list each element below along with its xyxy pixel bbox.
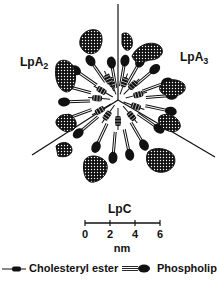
cholesteryl-ester-icon (2, 267, 26, 272)
scale-tick-0: 0 (82, 229, 88, 240)
region-label-lpc: LpC (108, 203, 131, 215)
scale-unit: nm (114, 243, 131, 254)
region-label-lpa3: LpA3 (180, 51, 208, 67)
phospholipid-icon (122, 265, 150, 273)
scale-tick-4: 4 (132, 229, 138, 240)
region-label-lpa2: LpA2 (20, 56, 48, 72)
legend-label-phospholipid: Phospholipi (157, 263, 217, 274)
scale-bar (85, 220, 160, 226)
apolipoprotein-blobs (55, 30, 185, 183)
lipoprotein-particle-diagram (0, 0, 217, 283)
scale-tick-6: 6 (157, 229, 163, 240)
scale-tick-2: 2 (107, 229, 113, 240)
legend-label-cholesteryl-ester: Cholesteryl ester (29, 263, 118, 274)
